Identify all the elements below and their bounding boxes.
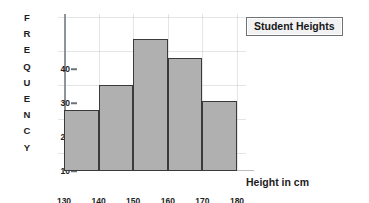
y-tick-mark <box>71 68 77 70</box>
y-axis-title: F R E Q U E N C Y <box>19 10 35 156</box>
y-tick-label: 40 <box>61 64 70 74</box>
x-tick-160: 160 <box>161 196 175 203</box>
bar-130-140 <box>64 110 99 171</box>
bar-150-160 <box>133 39 168 171</box>
y-axis-title-letter: Y <box>24 140 30 156</box>
x-tick-150: 150 <box>126 196 140 203</box>
x-tick-180: 180 <box>230 196 244 203</box>
plot-area: 10 20 30 40 130 140 150 160 170 180 <box>64 18 238 171</box>
y-axis-title-letter: C <box>24 123 31 139</box>
y-tick-40: 40 <box>42 64 70 74</box>
x-tick-140: 140 <box>92 196 106 203</box>
bar-160-170 <box>168 58 203 171</box>
x-axis-title: Height in cm <box>246 176 309 188</box>
y-axis-title-letter: E <box>24 42 30 58</box>
y-axis-title-letter: R <box>24 26 31 42</box>
y-axis-title-letter: Q <box>23 59 30 75</box>
y-tick-label: 30 <box>61 98 70 108</box>
y-axis-title-letter: F <box>24 10 30 26</box>
x-tick-170: 170 <box>195 196 209 203</box>
y-axis-title-letter: U <box>24 75 31 91</box>
x-tick-130: 130 <box>57 196 71 203</box>
bar-170-180 <box>202 101 237 171</box>
y-tick-30: 30 <box>42 98 70 108</box>
y-axis-title-letter: N <box>24 107 31 123</box>
y-axis-title-letter: E <box>24 91 30 107</box>
histogram-figure: F R E Q U E N C Y 10 20 30 40 13 <box>0 0 369 203</box>
y-tick-mark <box>71 102 77 104</box>
bar-140-150 <box>99 85 134 171</box>
chart-title: Student Heights <box>246 17 343 36</box>
